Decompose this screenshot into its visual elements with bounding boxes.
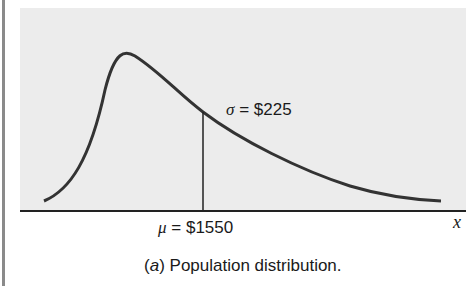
sigma-annotation: σ = $225 bbox=[226, 100, 292, 120]
mu-annotation: μ = $1550 bbox=[158, 218, 233, 238]
density-chart bbox=[0, 0, 476, 286]
chart-caption: (a) Population distribution. bbox=[144, 256, 342, 276]
x-axis-label: x bbox=[453, 212, 461, 233]
density-curve bbox=[44, 53, 441, 201]
